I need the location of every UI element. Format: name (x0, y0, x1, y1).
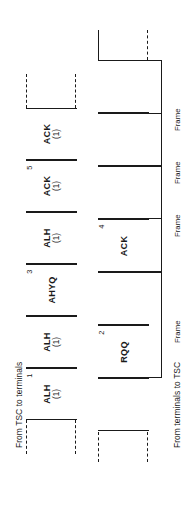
uplink-cell-2-index: 2 (98, 331, 105, 335)
downlink-cell-1-text: ALH (1) (42, 384, 61, 403)
uplink-cell-4-text: ACK (118, 235, 128, 255)
frame-bracket-3 (161, 166, 162, 272)
frame-bracket-2-tick-top (148, 113, 161, 114)
downlink-dash-bottom-left (26, 420, 27, 454)
downlink-cell-1[interactable]: ALH (1) 1 (26, 368, 77, 420)
frame-bracket-4-tick-top (148, 272, 161, 273)
frame-bracket-4-label: Frame (173, 320, 182, 343)
downlink-cell-3-index: 3 (26, 270, 33, 274)
uplink-cell-5[interactable] (98, 166, 149, 219)
uplink-dash-bottom-right (147, 432, 148, 462)
frame-bracket-2-tick-bottom (148, 218, 161, 219)
downlink-cell-5[interactable]: ACK (1) 5 (26, 160, 77, 212)
frame-bracket-3-spine (161, 166, 162, 272)
frame-bracket-4-tick-bottom (148, 377, 161, 378)
downlink-cell-5-text: ACK (1) (42, 176, 61, 196)
downlink-cell-3[interactable]: AHYQ 3 (26, 264, 77, 316)
downlink-cell-6-text: ACK (1) (42, 124, 61, 144)
uplink-rail-top-left (98, 30, 99, 60)
uplink-channel-label: From terminals to TSC (172, 362, 182, 448)
downlink-cell-5-index: 5 (26, 166, 33, 170)
uplink-cell-2[interactable]: RQQ 2 (98, 325, 149, 378)
downlink-dash-bottom-right (75, 420, 76, 454)
channel-downlink: ACK (1) ACK (1) 5 ALH (1) AHYQ (26, 108, 77, 420)
downlink-cell-4-text: ALH (1) (42, 228, 61, 247)
frame-bracket-2-label: Frame (173, 161, 182, 184)
uplink-cell-6[interactable] (98, 113, 149, 166)
uplink-cell-1[interactable] (98, 378, 149, 431)
uplink-dash-bottom-left (98, 432, 99, 462)
downlink-dash-top-right (75, 74, 76, 108)
downlink-cell-2[interactable]: ALH (1) (26, 316, 77, 368)
downlink-cell-1-index: 1 (26, 374, 33, 378)
uplink-cell-3[interactable] (98, 272, 149, 325)
uplink-cell-2-text: RQQ (118, 341, 128, 362)
downlink-cell-4[interactable]: ALH (1) (26, 212, 77, 264)
uplink-dash-top-right (147, 30, 148, 60)
frame-bracket-3-label: Frame (173, 214, 182, 237)
downlink-dash-top-left (26, 74, 27, 108)
downlink-cell-2-text: ALH (1) (42, 332, 61, 351)
downlink-cell-6[interactable]: ACK (1) (26, 108, 77, 160)
uplink-cell-4[interactable]: ACK 4 (98, 219, 149, 272)
timing-diagram: ACK (1) ACK (1) 5 ALH (1) AHYQ (0, 0, 182, 523)
frame-bracket-1-tick-top (148, 60, 161, 61)
frame-bracket-3-tick-top (148, 166, 161, 167)
downlink-channel-label: From TSC to terminals (14, 362, 24, 448)
frame-bracket-4 (161, 272, 162, 378)
uplink-cell-4-index: 4 (98, 225, 105, 229)
downlink-cell-3-text: AHYQ (46, 276, 56, 303)
frame-bracket-4-spine (161, 272, 162, 378)
uplink-cell-7[interactable] (98, 60, 149, 113)
frame-bracket-1-label: Frame (173, 108, 182, 131)
channel-uplink: ACK 4 RQQ 2 (98, 60, 149, 431)
